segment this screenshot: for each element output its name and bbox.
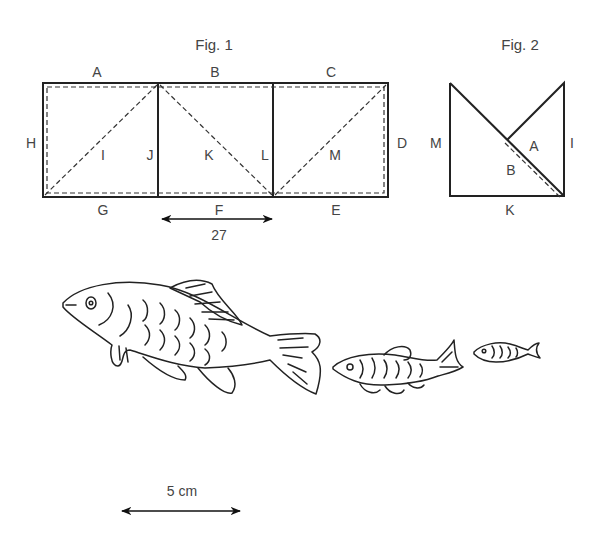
label-d: D	[397, 135, 407, 151]
large-fish-gill-2	[120, 305, 131, 336]
fig1-diagonal-i	[45, 85, 157, 195]
large-fish-pupil	[89, 301, 93, 305]
label-j: J	[147, 147, 154, 163]
figure-2: Fig. 2 M A B I K	[430, 36, 574, 218]
label-b: B	[210, 64, 219, 80]
fig2-label-m: M	[430, 135, 442, 151]
dimension-label: 27	[211, 227, 227, 243]
fig1-outer-rectangle	[43, 83, 388, 197]
fig2-label-i: I	[570, 135, 574, 151]
fig2-title: Fig. 2	[501, 36, 539, 53]
fig1-diagonal-m	[275, 85, 386, 195]
label-a: A	[92, 64, 102, 80]
medium-fish	[333, 340, 463, 393]
label-h: H	[26, 135, 36, 151]
small-fish-scales	[492, 346, 518, 358]
label-i: I	[101, 147, 105, 163]
large-fish-eye	[86, 297, 96, 309]
large-fish-gill	[99, 293, 113, 325]
large-fish-tail-rays	[278, 338, 308, 384]
fig2-label-b: B	[506, 162, 515, 178]
fig2-label-k: K	[505, 202, 515, 218]
fig1-title: Fig. 1	[195, 36, 233, 53]
label-c: C	[326, 64, 336, 80]
large-fish-anal-fin	[198, 368, 235, 393]
scale-bar: 5 cm	[122, 483, 240, 511]
label-e: E	[331, 202, 340, 218]
diagram-canvas: Fig. 1 A B C D E F G H I J K L M 27 Fig.…	[0, 0, 596, 540]
large-fish-scales	[143, 300, 226, 365]
large-fish-dorsal-rays	[186, 284, 234, 320]
large-fish	[63, 281, 320, 394]
label-f: F	[215, 202, 224, 218]
label-g: G	[98, 202, 109, 218]
figure-1: Fig. 1 A B C D E F G H I J K L M 27	[26, 36, 407, 243]
fig2-label-a: A	[529, 138, 539, 154]
medium-fish-scales	[360, 358, 422, 378]
medium-fish-dorsal-fin	[384, 347, 411, 360]
small-fish	[474, 343, 540, 362]
large-fish-body	[63, 282, 320, 394]
label-m: M	[329, 147, 341, 163]
fig1-seam-allowance	[47, 87, 384, 193]
medium-fish-eye	[347, 364, 353, 370]
small-fish-eye	[482, 349, 486, 353]
fig1-diagonal-k	[160, 85, 272, 195]
label-l: L	[261, 147, 269, 163]
label-k: K	[204, 147, 214, 163]
scale-bar-label: 5 cm	[167, 483, 197, 499]
